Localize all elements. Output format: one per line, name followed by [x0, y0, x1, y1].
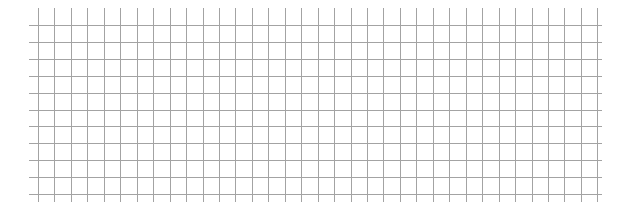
grid-background	[0, 0, 630, 214]
grid-paper	[0, 0, 630, 214]
